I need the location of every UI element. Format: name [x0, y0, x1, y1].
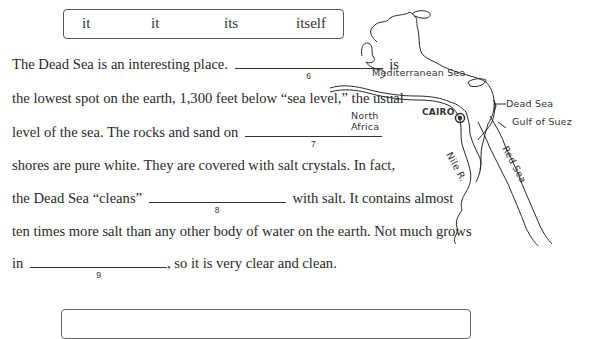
blank-number: 8 [215, 205, 220, 215]
passage-text: in [12, 255, 23, 271]
word-bank-box: it it its itself [63, 9, 344, 39]
word-bank-item: its [224, 15, 238, 32]
passage-line: level of the sea. The rocks and sand on … [12, 124, 385, 141]
bottom-word-box [61, 309, 471, 339]
passage-text: level of the sea. The rocks and sand on [12, 124, 238, 140]
passage-line: in 9, so it is very clear and clean. [12, 255, 337, 272]
word-bank-item: itself [296, 15, 326, 32]
map-label-africa: Africa [351, 121, 379, 132]
map-label-north: North [351, 110, 379, 121]
word-bank-item: it [82, 15, 90, 32]
answer-blank-9[interactable]: 9 [30, 257, 167, 268]
passage-text: the Dead Sea “cleans” [12, 190, 142, 206]
blank-number: 6 [306, 71, 311, 81]
passage-text: The Dead Sea is an interesting place. [12, 56, 228, 72]
passage-text: , so it is very clear and clean. [167, 255, 337, 271]
map-label-gulf-of-suez: Gulf of Suez [512, 116, 572, 127]
blank-number: 7 [311, 139, 316, 149]
dead-sea-map: Mediterranean Sea Dead Sea Gulf of Suez … [330, 0, 609, 250]
map-label-mediterranean: Mediterranean Sea [372, 67, 466, 78]
map-label-cairo: CAIRO [422, 107, 455, 117]
map-label-dead-sea: Dead Sea [506, 98, 553, 109]
word-bank-item: it [151, 15, 159, 32]
blank-number: 9 [96, 270, 101, 280]
answer-blank-8[interactable]: 8 [149, 192, 286, 203]
